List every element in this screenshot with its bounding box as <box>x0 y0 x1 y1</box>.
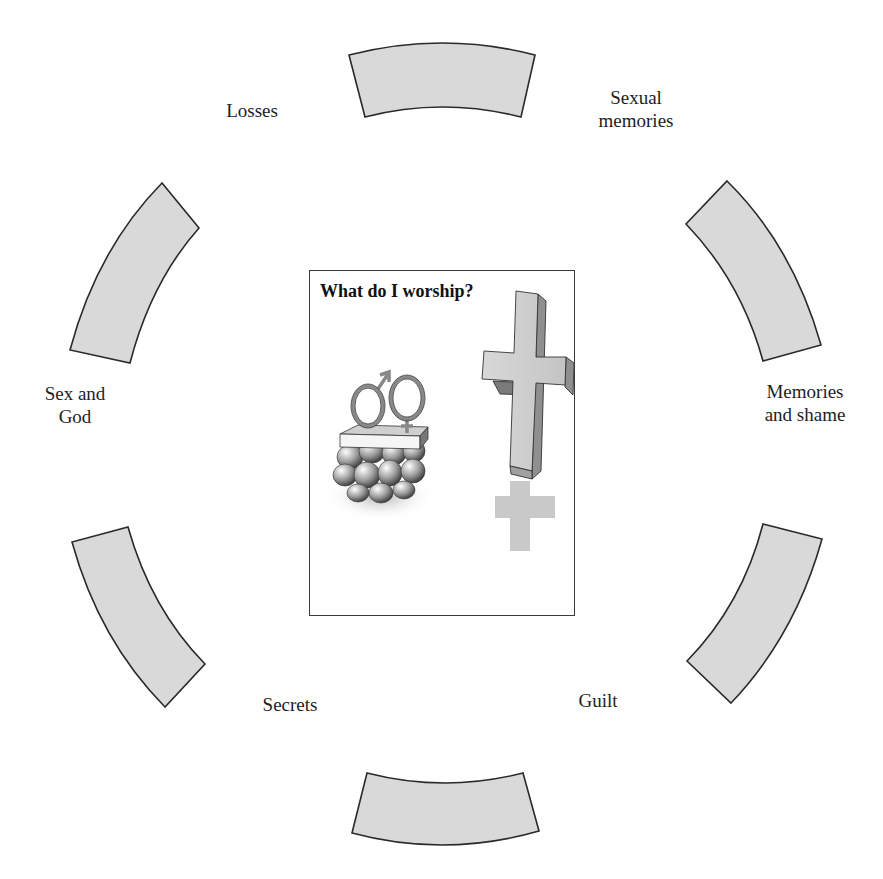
cross-icon <box>482 291 574 479</box>
card-illustration <box>310 271 574 615</box>
worship-card: What do I worship? <box>309 270 575 616</box>
label-sex-and-god: Sex and God <box>25 382 125 428</box>
label-guilt: Guilt <box>568 689 628 712</box>
label-secrets: Secrets <box>245 693 335 716</box>
label-sexual-memories: Sexual memories <box>586 86 686 132</box>
label-memories-and-shame: Memories and shame <box>740 380 870 426</box>
segment-top <box>349 43 535 117</box>
segment-upper-left <box>70 183 199 363</box>
segment-lower-left <box>72 527 205 707</box>
stone-altar-icon <box>333 425 428 503</box>
card-title: What do I worship? <box>320 281 474 302</box>
gender-symbols-icon <box>353 372 423 433</box>
segment-upper-right <box>686 181 821 361</box>
cross-shadow <box>495 481 555 551</box>
label-losses: Losses <box>212 99 292 122</box>
segment-bottom <box>352 773 539 845</box>
segment-lower-right <box>687 524 822 703</box>
